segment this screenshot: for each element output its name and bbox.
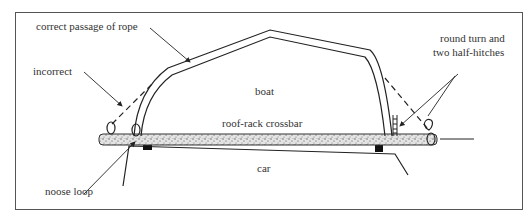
right-rope-lashing xyxy=(393,115,397,136)
label-car: car xyxy=(257,162,270,175)
label-correct-passage: correct passage of rope xyxy=(36,20,138,33)
label-crossbar: roof-rack crossbar xyxy=(222,117,302,130)
label-hitch-line2: two half-hitches xyxy=(433,46,504,59)
label-boat: boat xyxy=(255,85,274,98)
rack-pad-left xyxy=(143,145,152,150)
label-noose-loop: noose loop xyxy=(45,185,93,198)
crossbar xyxy=(99,134,437,145)
label-hitch-line1: round turn and xyxy=(440,32,505,45)
rack-pad-right xyxy=(375,145,383,152)
incorrect-rope-left xyxy=(112,84,152,124)
label-incorrect: incorrect xyxy=(33,65,72,78)
leader-lines xyxy=(84,28,458,194)
